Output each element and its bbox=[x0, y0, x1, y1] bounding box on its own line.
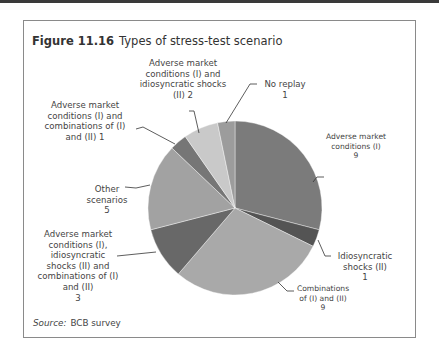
pie-slices bbox=[148, 121, 322, 295]
label-adverse: Adverse market conditions (I) 9 bbox=[315, 132, 397, 161]
source-text: BCB survey bbox=[70, 318, 120, 328]
label-all-three: Adverse market conditions (I), idiosyncr… bbox=[28, 229, 128, 303]
label-idiosyncratic: Idiosyncratic shocks (II) 1 bbox=[327, 251, 403, 283]
label-amc-idio: Adverse market conditions (I) and idiosy… bbox=[120, 58, 246, 100]
source-label: Source: bbox=[33, 318, 66, 328]
label-other: Other scenarios 5 bbox=[80, 184, 134, 216]
label-combinations: Combinations of (I) and (II) 9 bbox=[285, 284, 361, 313]
source-note: Source:BCB survey bbox=[33, 318, 121, 328]
pie-chart bbox=[0, 0, 439, 361]
label-no-replay: No replay 1 bbox=[258, 79, 312, 100]
label-amc-comb: Adverse market conditions (I) and combin… bbox=[28, 100, 142, 142]
